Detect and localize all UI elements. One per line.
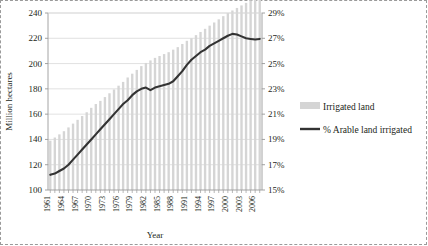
- x-axis-tick-label: 1994: [194, 196, 203, 212]
- x-axis-tick-label: 1961: [43, 196, 52, 212]
- bar-irrigated-land: [49, 141, 51, 190]
- chart-figure: 10012014016018020022024015%17%19%21%23%2…: [0, 0, 428, 246]
- bar-irrigated-land: [95, 104, 97, 190]
- bar-irrigated-land: [218, 19, 220, 190]
- y-axis-tick-label-left: 180: [29, 84, 43, 94]
- bar-irrigated-land: [177, 47, 179, 190]
- bar-irrigated-land: [63, 131, 65, 190]
- y-axis-tick-label-right: 17%: [268, 160, 285, 170]
- x-axis-tick-label: 1988: [166, 196, 175, 212]
- bar-irrigated-land: [140, 66, 142, 190]
- bar-irrigated-land: [204, 29, 206, 190]
- bar-irrigated-land: [81, 116, 83, 190]
- y-axis-tick-label-left: 160: [29, 109, 43, 119]
- bar-irrigated-land: [163, 54, 165, 190]
- x-axis-tick-label: 1973: [98, 196, 107, 212]
- bar-irrigated-land: [222, 16, 224, 190]
- bar-irrigated-land: [131, 74, 133, 190]
- bar-irrigated-land: [172, 50, 174, 190]
- bar-irrigated-land: [231, 10, 233, 190]
- x-axis-tick-label: 1991: [180, 196, 189, 212]
- y-axis-title: Million hectares: [4, 72, 14, 131]
- x-axis-tick-label: 2006: [248, 196, 257, 212]
- y-axis-tick-label-left: 220: [29, 33, 43, 43]
- bar-irrigated-land: [136, 70, 138, 190]
- bar-irrigated-land: [58, 134, 60, 190]
- x-axis-tick-label: 1985: [153, 196, 162, 212]
- y-axis-tick-label-right: 19%: [268, 134, 285, 144]
- bar-irrigated-land: [90, 108, 92, 190]
- bar-irrigated-land: [208, 26, 210, 190]
- bar-irrigated-land: [181, 44, 183, 190]
- legend-swatch-irrigated-land: [300, 102, 320, 109]
- bar-irrigated-land: [117, 86, 119, 190]
- y-axis-tick-label-left: 120: [29, 160, 43, 170]
- x-axis-tick-label: 1979: [125, 196, 134, 212]
- x-axis-tick-label: 1970: [84, 196, 93, 212]
- y-axis-tick-label-right: 25%: [268, 59, 285, 69]
- bar-irrigated-land: [99, 101, 101, 190]
- bar-irrigated-land: [86, 112, 88, 190]
- bar-irrigated-land: [227, 13, 229, 190]
- bar-irrigated-land: [67, 127, 69, 190]
- y-axis-tick-label-left: 200: [29, 59, 43, 69]
- x-axis-tick-label: 1976: [112, 196, 121, 212]
- x-axis-tick-label: 2000: [221, 196, 230, 212]
- x-axis-tick-label: 2003: [235, 196, 244, 212]
- bar-irrigated-land: [167, 52, 169, 190]
- bar-irrigated-land: [126, 77, 128, 190]
- bar-irrigated-land: [245, 3, 247, 190]
- bar-irrigated-land: [108, 93, 110, 190]
- bar-irrigated-land: [122, 82, 124, 190]
- legend-label: % Arable land irrigated: [323, 125, 412, 135]
- y-axis-tick-label-right: 23%: [268, 84, 285, 94]
- bar-irrigated-land: [113, 89, 115, 190]
- x-axis-title: Year: [147, 230, 164, 240]
- bar-irrigated-land: [259, 0, 261, 190]
- x-axis-tick-label: 1982: [139, 196, 148, 212]
- y-axis-tick-label-right: 29%: [268, 8, 285, 18]
- bar-irrigated-land: [240, 5, 242, 190]
- bar-irrigated-land: [72, 124, 74, 190]
- bar-irrigated-land: [195, 35, 197, 190]
- y-axis-tick-label-right: 27%: [268, 33, 285, 43]
- x-axis-tick-label: 1964: [57, 196, 66, 212]
- y-axis-tick-label-right: 15%: [268, 185, 285, 195]
- bar-irrigated-land: [54, 138, 56, 190]
- bar-irrigated-land: [213, 22, 215, 190]
- bar-irrigated-land: [145, 63, 147, 190]
- y-axis-tick-label-left: 100: [29, 185, 43, 195]
- bar-irrigated-land: [154, 58, 156, 190]
- chart-canvas: 10012014016018020022024015%17%19%21%23%2…: [0, 0, 428, 246]
- legend-label: Irrigated land: [323, 102, 375, 112]
- x-axis-tick-label: 1997: [207, 196, 216, 212]
- y-axis-tick-label-left: 140: [29, 134, 43, 144]
- y-axis-tick-label-left: 240: [29, 8, 43, 18]
- bar-irrigated-land: [199, 32, 201, 190]
- bar-irrigated-land: [104, 97, 106, 190]
- bar-irrigated-land: [158, 56, 160, 190]
- bar-irrigated-land: [249, 0, 251, 190]
- y-axis-tick-label-right: 21%: [268, 109, 285, 119]
- bar-irrigated-land: [149, 60, 151, 190]
- bar-irrigated-land: [254, 0, 256, 190]
- x-axis-tick-label: 1967: [71, 196, 80, 212]
